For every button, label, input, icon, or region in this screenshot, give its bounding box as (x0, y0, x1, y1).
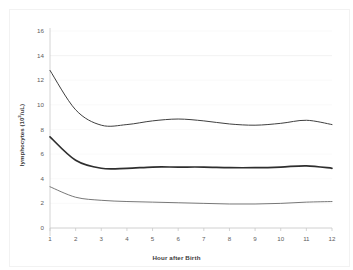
line-chart-plot (0, 0, 353, 270)
axis-lines (50, 28, 332, 236)
y-tick-label: 16 (28, 27, 44, 34)
x-tick-label: 11 (298, 235, 314, 242)
x-tick-label: 12 (324, 235, 340, 242)
x-tick-label: 10 (273, 235, 289, 242)
y-tick-label: 12 (28, 76, 44, 83)
series-line-0 (50, 70, 332, 126)
y-axis-title: lymphocytes (103/uL) (17, 104, 25, 166)
y-tick-label: 2 (28, 199, 44, 206)
y-tick-label: 0 (28, 224, 44, 231)
y-axis-title-container: lymphocytes (103/uL) (14, 95, 28, 175)
x-tick-label: 8 (221, 235, 237, 242)
series-line-1 (50, 137, 332, 169)
gridlines (50, 31, 332, 228)
series-line-2 (50, 187, 332, 204)
y-tick-label: 10 (28, 101, 44, 108)
x-tick-label: 7 (196, 235, 212, 242)
x-axis-title: Hour after Birth (0, 254, 353, 261)
y-tick-label: 8 (28, 126, 44, 133)
chart-figure: lymphocytes (103/uL) Hour after Birth 02… (0, 0, 353, 270)
y-tick-label: 4 (28, 175, 44, 182)
series-paths (50, 70, 332, 204)
x-tick-label: 1 (42, 235, 58, 242)
y-tick-label: 14 (28, 52, 44, 59)
x-tick-label: 3 (93, 235, 109, 242)
x-tick-label: 6 (170, 235, 186, 242)
x-tick-label: 9 (247, 235, 263, 242)
x-tick-label: 2 (68, 235, 84, 242)
x-tick-label: 5 (145, 235, 161, 242)
y-tick-label: 6 (28, 150, 44, 157)
x-tick-label: 4 (119, 235, 135, 242)
